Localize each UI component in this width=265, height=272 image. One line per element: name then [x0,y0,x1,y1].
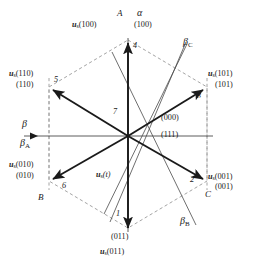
beta-b-axis-label: βB [180,216,190,228]
vector-2-u001 [128,136,203,179]
switching-state-110: (110) [16,81,33,90]
vector-label-u001: us(001) [208,173,233,182]
phase-axis-label-c: C [205,190,211,199]
zero-state-000: (000) [161,114,179,123]
vector-6-u010 [53,136,128,179]
beta-c-axis-label: βC [183,37,193,49]
phase-axis-label-b: B [38,193,44,202]
vector-label-u010: us(010) [9,161,34,170]
vector-label-u011: us(011) [100,248,124,257]
sector-index-6: 6 [62,182,66,191]
vector-argument: (110) [16,69,33,78]
switching-state-101: (101) [215,81,233,90]
vector-label-u100: us(100) [72,21,97,30]
zero-vector-index-7: 7 [113,108,117,117]
vector-argument: (011) [107,247,124,256]
vector-argument: (010) [16,160,34,169]
beta-subscript-a: A [25,142,30,150]
figure-canvas: A α us(100) (100) 4 us(110) (110) 5 us(1… [0,0,265,272]
beta-axis-label: β [22,119,27,130]
alpha-axis-label: α [137,8,142,19]
beta-a-axis-label: βA [20,138,30,150]
vector-argument-t: (t) [103,170,111,179]
vector-label-u101: us(101) [208,70,233,79]
zero-state-111: (111) [161,131,178,140]
sector-index-5: 5 [54,76,58,85]
switching-state-100: (100) [134,21,152,30]
reference-vector-label: us(t) [96,171,111,180]
switching-state-011: (011) [111,233,128,242]
sector-index-3: 3 [197,92,201,101]
vector-argument: (100) [79,20,97,29]
vector-argument: (101) [215,69,233,78]
beta-subscript-b: B [185,220,190,228]
phase-axis-label-a: A [117,9,123,18]
beta-subscript-c: C [188,41,193,49]
vector-label-u110: us(110) [9,70,33,79]
sector-index-4: 4 [133,42,137,51]
switching-state-010: (010) [16,172,34,181]
switching-state-001: (001) [215,183,233,192]
sector-index-1: 1 [116,210,120,219]
vector-argument: (001) [215,172,233,181]
sector-index-2: 2 [190,176,194,185]
